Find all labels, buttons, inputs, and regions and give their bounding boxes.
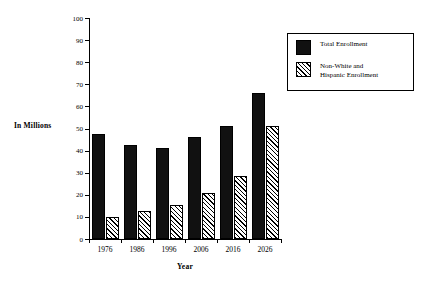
legend-label-minority-enrollment: Non-White and Hispanic Enrollment — [320, 62, 378, 80]
x-axis-tick-label: 2006 — [194, 246, 209, 254]
x-axis-tick — [121, 239, 122, 243]
x-axis-tick — [249, 239, 250, 243]
x-axis-tick — [281, 239, 282, 243]
y-axis-tick-label: 60 — [76, 103, 83, 110]
x-axis-tick — [217, 239, 218, 243]
y-axis-tick: 80 — [85, 62, 89, 63]
x-axis-title: Year — [89, 262, 281, 271]
bar-total-1986 — [124, 145, 137, 239]
y-axis-tick-label: 100 — [73, 15, 84, 22]
y-axis-tick: 70 — [85, 84, 89, 85]
bar-minority-2016 — [234, 176, 247, 239]
y-axis-tick-label: 20 — [76, 192, 83, 199]
bar-total-2016 — [220, 126, 233, 239]
legend-swatch-solid-icon — [296, 40, 311, 55]
legend-swatch-hatch-icon — [296, 62, 311, 77]
bar-minority-2026 — [266, 126, 279, 239]
y-axis-tick: 60 — [85, 106, 89, 107]
bar-total-2026 — [252, 93, 265, 239]
x-axis-tick — [89, 239, 90, 243]
y-axis-tick-label: 40 — [76, 148, 83, 155]
bar-total-1996 — [156, 148, 169, 239]
x-axis-tick-label: 1996 — [162, 246, 177, 254]
legend-item-total-enrollment: Total Enrollment — [296, 40, 413, 55]
y-axis-tick-label: 30 — [76, 170, 83, 177]
y-axis-tick-label: 90 — [76, 37, 83, 44]
x-axis-tick — [153, 239, 154, 243]
bar-minority-2006 — [202, 193, 215, 239]
plot-area: 0102030405060708090100 19761986199620062… — [89, 18, 281, 239]
y-axis-tick-label: 10 — [76, 214, 83, 221]
y-axis-tick: 30 — [85, 173, 89, 174]
y-axis-tick-label: 70 — [76, 81, 83, 88]
y-axis-tick: 20 — [85, 195, 89, 196]
enrollment-bar-chart: In Millions 0102030405060708090100 19761… — [0, 0, 423, 288]
y-axis-tick: 90 — [85, 40, 89, 41]
legend-label-total-enrollment: Total Enrollment — [320, 40, 368, 49]
y-axis-title: In Millions — [14, 121, 51, 130]
bar-total-2006 — [188, 137, 201, 239]
x-axis-tick-label: 1976 — [98, 246, 113, 254]
y-axis-tick: 40 — [85, 151, 89, 152]
x-axis-tick — [185, 239, 186, 243]
y-axis-tick-label: 0 — [80, 236, 84, 243]
bar-minority-1996 — [170, 205, 183, 239]
bar-total-1976 — [92, 134, 105, 239]
chart-legend: Total Enrollment Non-White and Hispanic … — [287, 33, 414, 91]
bar-minority-1986 — [138, 211, 151, 239]
y-axis-tick-label: 50 — [76, 126, 83, 133]
x-axis-tick-label: 1986 — [130, 246, 145, 254]
x-axis-tick-label: 2026 — [258, 246, 273, 254]
legend-item-minority-enrollment: Non-White and Hispanic Enrollment — [296, 62, 413, 80]
y-axis-tick: 100 — [85, 18, 89, 19]
y-axis-line — [89, 18, 90, 239]
bar-minority-1976 — [106, 217, 119, 239]
y-axis-tick-label: 80 — [76, 59, 83, 66]
x-axis-tick-label: 2016 — [226, 246, 241, 254]
y-axis-tick: 50 — [85, 129, 89, 130]
y-axis-tick: 10 — [85, 217, 89, 218]
